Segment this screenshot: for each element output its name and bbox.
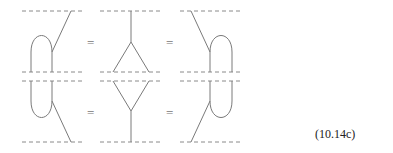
bottom-row-panel-1 xyxy=(22,81,82,142)
equals-sign: = xyxy=(166,105,173,121)
equals-sign: = xyxy=(87,35,94,51)
equation-number: (10.14c) xyxy=(315,127,355,142)
bottom-row-panel-2 xyxy=(100,81,162,142)
top-row-panel-1 xyxy=(22,11,82,72)
bottom-row-panel-3 xyxy=(180,81,242,142)
equals-sign: = xyxy=(166,35,173,51)
top-row-panel-3 xyxy=(180,11,242,72)
equals-sign: = xyxy=(87,105,94,121)
top-row-panel-2 xyxy=(100,11,162,72)
